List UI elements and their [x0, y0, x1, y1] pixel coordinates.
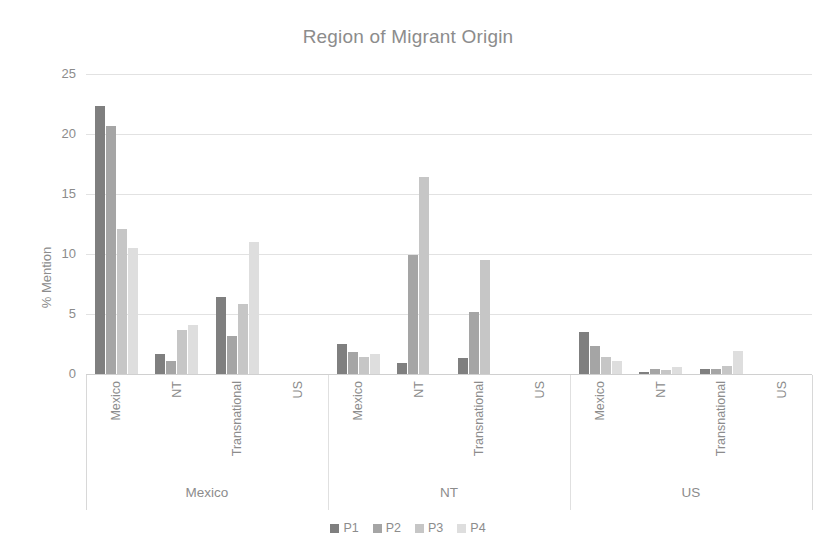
legend-item-p3[interactable]: P3: [415, 521, 443, 535]
legend-swatch-p1: [330, 524, 339, 533]
bar-p3[interactable]: [722, 366, 732, 374]
bar-p3[interactable]: [419, 177, 429, 374]
bar-p1[interactable]: [397, 363, 407, 374]
panel-mexico: [86, 74, 328, 374]
bar-p2[interactable]: [711, 369, 721, 374]
bar-p1[interactable]: [216, 297, 226, 374]
legend-item-p2[interactable]: P2: [373, 521, 401, 535]
legend-swatch-p3: [415, 524, 424, 533]
bar-p3[interactable]: [601, 357, 611, 374]
legend-label: P2: [386, 521, 401, 535]
y-tick-label-5: 5: [32, 307, 76, 320]
y-tick-label-15: 15: [32, 187, 76, 200]
panel-group-labels: MexicoNTUS: [86, 485, 812, 507]
bar-p1[interactable]: [639, 372, 649, 374]
bar-p2[interactable]: [227, 336, 237, 374]
y-tick-label-0: 0: [32, 367, 76, 380]
bar-p3[interactable]: [661, 370, 671, 374]
bar-p3[interactable]: [480, 260, 490, 374]
bar-group-mexico-us: [270, 74, 326, 374]
legend-label: P3: [428, 521, 443, 535]
chart-container: Region of Migrant Origin % Mention 05101…: [0, 0, 816, 554]
bar-p2[interactable]: [106, 126, 116, 374]
bar-p3[interactable]: [117, 229, 127, 374]
bar-p3[interactable]: [238, 304, 248, 374]
bar-panels: [86, 74, 812, 374]
bar-group-mexico-nt: [149, 74, 205, 374]
y-tick-label-20: 20: [32, 127, 76, 140]
bar-p1[interactable]: [337, 344, 347, 374]
group-label-us: US: [570, 485, 812, 507]
legend-swatch-p2: [373, 524, 382, 533]
bar-p2[interactable]: [469, 312, 479, 374]
bar-p1[interactable]: [579, 332, 589, 374]
panel-us: [570, 74, 812, 374]
legend-label: P4: [470, 521, 485, 535]
bar-p2[interactable]: [590, 346, 600, 374]
y-tick-label-10: 10: [32, 247, 76, 260]
panel-separator-3: [812, 375, 813, 510]
bar-p2[interactable]: [348, 352, 358, 374]
bar-group-nt-us: [512, 74, 568, 374]
y-tick-label-25: 25: [32, 67, 76, 80]
bar-group-us-transnational: [693, 74, 749, 374]
bar-group-us-nt: [633, 74, 689, 374]
group-label-nt: NT: [328, 485, 570, 507]
bar-group-nt-transnational: [451, 74, 507, 374]
bar-p4[interactable]: [733, 351, 743, 374]
bar-p2[interactable]: [408, 255, 418, 374]
legend-item-p4[interactable]: P4: [457, 521, 485, 535]
bar-p4[interactable]: [128, 248, 138, 374]
bar-p4[interactable]: [672, 367, 682, 374]
bar-p3[interactable]: [177, 330, 187, 374]
bar-p2[interactable]: [650, 369, 660, 374]
chart-legend: P1P2P3P4: [0, 521, 816, 535]
legend-label: P1: [343, 521, 358, 535]
legend-swatch-p4: [457, 524, 466, 533]
panel-nt: [328, 74, 570, 374]
bar-group-mexico-mexico: [88, 74, 144, 374]
bar-p4[interactable]: [188, 325, 198, 374]
bar-p1[interactable]: [95, 106, 105, 374]
bar-p1[interactable]: [458, 358, 468, 374]
bar-p4[interactable]: [612, 361, 622, 374]
bar-p2[interactable]: [166, 361, 176, 374]
y-axis-ticks: 0510152025: [28, 74, 76, 374]
bar-p4[interactable]: [249, 242, 259, 374]
bar-group-us-mexico: [572, 74, 628, 374]
bar-group-mexico-transnational: [209, 74, 265, 374]
bar-p1[interactable]: [155, 354, 165, 374]
bar-p4[interactable]: [370, 354, 380, 374]
chart-title: Region of Migrant Origin: [0, 26, 816, 48]
bar-group-us-us: [754, 74, 810, 374]
group-label-mexico: Mexico: [86, 485, 328, 507]
bar-group-nt-mexico: [330, 74, 386, 374]
legend-item-p1[interactable]: P1: [330, 521, 358, 535]
bar-group-nt-nt: [391, 74, 447, 374]
bar-p1[interactable]: [700, 369, 710, 374]
bar-p3[interactable]: [359, 357, 369, 374]
